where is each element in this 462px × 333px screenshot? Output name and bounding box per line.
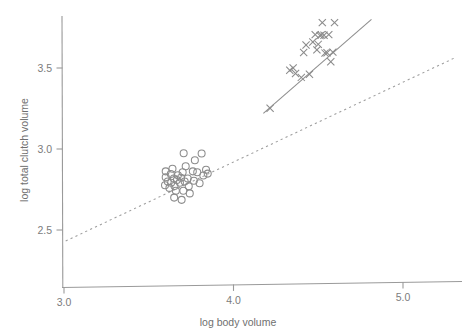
data-point-cross bbox=[325, 31, 332, 38]
data-point-cross bbox=[329, 49, 336, 56]
y-axis-tick-label: 3.5 bbox=[37, 62, 52, 74]
data-point-cross bbox=[327, 58, 334, 65]
y-axis-title: log total clutch volume bbox=[18, 98, 30, 202]
data-point-cross bbox=[319, 19, 326, 26]
plot-canvas: 2.53.03.53.04.05.0log body volumelog tot… bbox=[0, 0, 462, 333]
x-axis-tick-label: 5.0 bbox=[396, 291, 411, 303]
axes-layer bbox=[57, 16, 462, 293]
data-point-circle bbox=[180, 150, 187, 157]
data-layer bbox=[66, 19, 454, 241]
data-point-circle bbox=[191, 157, 198, 164]
data-point-cross bbox=[302, 41, 309, 48]
data-point-circle bbox=[178, 196, 185, 203]
data-point-cross bbox=[267, 105, 274, 112]
data-point-cross bbox=[313, 46, 320, 53]
y-axis-tick-label: 3.0 bbox=[37, 143, 52, 155]
scatter-plot-figure: 2.53.03.53.04.05.0log body volumelog tot… bbox=[0, 0, 462, 333]
x-axis-title: log body volume bbox=[200, 316, 277, 328]
data-point-cross bbox=[306, 71, 313, 78]
data-point-cross bbox=[300, 49, 307, 56]
data-point-circle bbox=[182, 163, 189, 170]
data-point-circle bbox=[196, 180, 203, 187]
x-axis-line bbox=[62, 282, 462, 288]
dashed-reference-line bbox=[66, 58, 454, 241]
x-axis-tick-label: 3.0 bbox=[57, 296, 72, 308]
data-point-circle bbox=[198, 150, 205, 157]
x-axis-tick-label: 4.0 bbox=[226, 294, 241, 306]
y-axis-line bbox=[62, 16, 63, 287]
axis-labels-layer: 2.53.03.53.04.05.0log body volumelog tot… bbox=[18, 62, 410, 328]
data-point-circle bbox=[185, 183, 192, 190]
data-point-circle bbox=[186, 190, 193, 197]
data-point-cross bbox=[331, 19, 338, 26]
series-crosses bbox=[267, 19, 339, 112]
y-axis-tick-label: 2.5 bbox=[37, 224, 52, 236]
data-point-circle bbox=[171, 194, 178, 201]
